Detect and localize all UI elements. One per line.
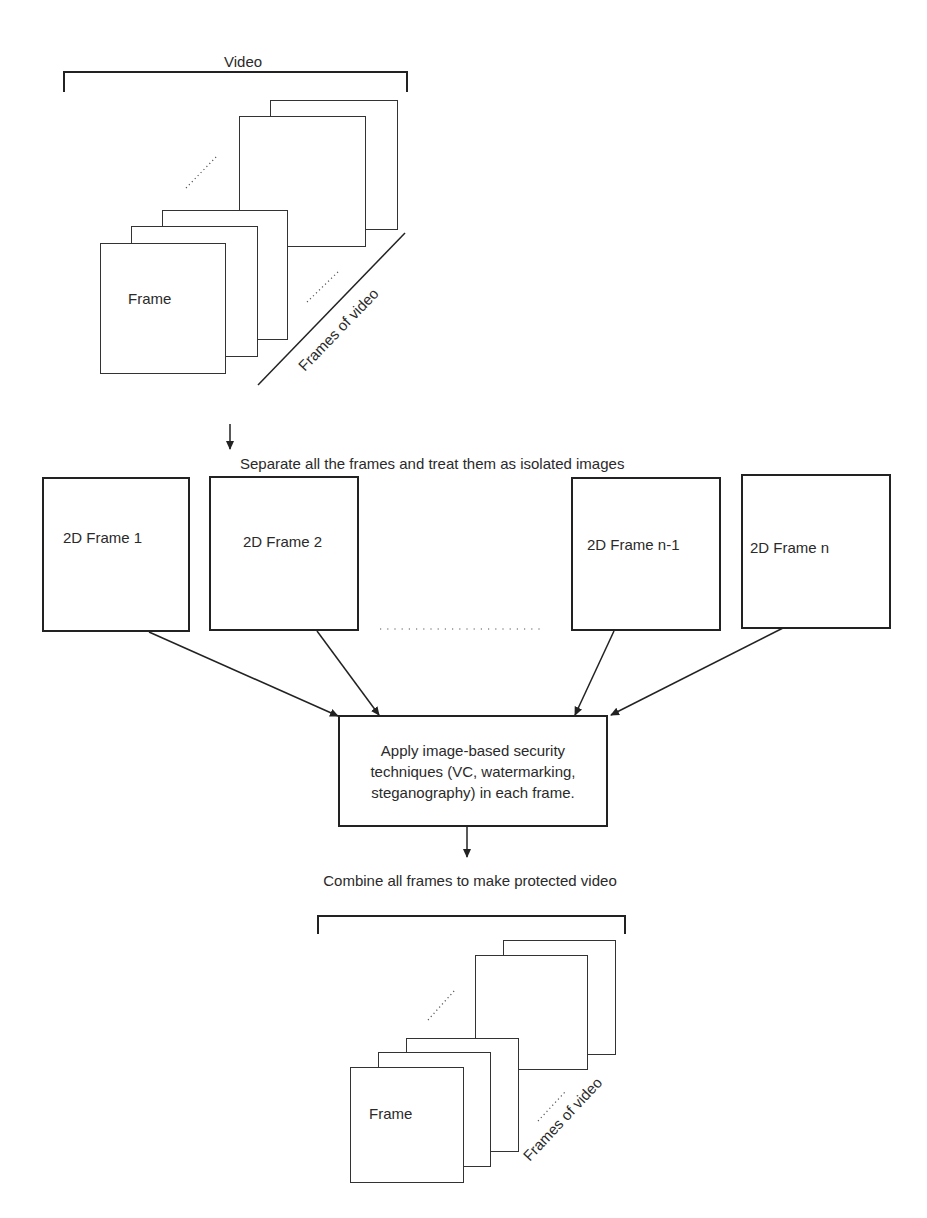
- arrow-frame1: [149, 632, 338, 716]
- frame-label: Frame: [369, 1105, 412, 1122]
- video-label: Video: [224, 53, 262, 70]
- protected-video-bracket: [318, 916, 625, 934]
- frame-box-label: 2D Frame 2: [243, 533, 322, 550]
- arrow-frame-n-1: [575, 631, 614, 715]
- security-process-label: Apply image-based security techniques (V…: [351, 740, 596, 803]
- frame-box-label: 2D Frame n-1: [587, 536, 680, 553]
- ellipsis-dots: [428, 990, 455, 1020]
- frame-box-label: 2D Frame n: [750, 539, 829, 556]
- frame-label: Frame: [128, 290, 171, 307]
- frame-box-label: 2D Frame 1: [63, 529, 142, 546]
- ellipsis-dots: [307, 270, 340, 302]
- security-process-box: Apply image-based security techniques (V…: [338, 715, 608, 827]
- frame-box-n-1: 2D Frame n-1: [571, 477, 721, 631]
- arrow-frame-n: [611, 628, 783, 715]
- frame-box-n: 2D Frame n: [741, 474, 891, 629]
- combine-step-label: Combine all frames to make protected vid…: [308, 871, 632, 891]
- ellipsis-dots: [186, 155, 218, 188]
- frame-box-2: 2D Frame 2: [209, 476, 359, 631]
- front-frame: Frame: [100, 243, 226, 374]
- separate-step-label: Separate all the frames and treat them a…: [240, 455, 624, 472]
- video-bracket: [64, 72, 407, 92]
- arrow-frame2: [317, 631, 379, 715]
- front-frame: Frame: [350, 1067, 464, 1183]
- frame-box-1: 2D Frame 1: [42, 477, 190, 632]
